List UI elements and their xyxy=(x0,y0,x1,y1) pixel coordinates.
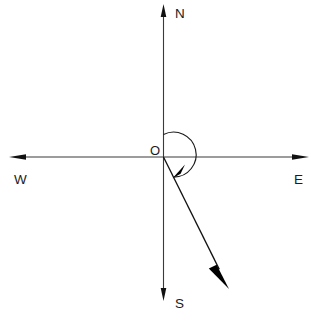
compass-svg: N S W E O xyxy=(0,0,318,320)
west-arrow-head-icon xyxy=(9,154,26,160)
north-arrow-head-icon xyxy=(161,4,167,17)
south-arrow-head-icon xyxy=(161,288,167,301)
east-arrow-head-icon xyxy=(292,154,309,160)
label-origin: O xyxy=(150,143,160,158)
label-north: N xyxy=(175,6,185,21)
label-south: S xyxy=(175,296,184,311)
label-west: W xyxy=(14,172,27,187)
label-east: E xyxy=(294,172,303,187)
bearing-direction-ray xyxy=(164,157,220,269)
compass-diagram: N S W E O xyxy=(0,0,318,320)
